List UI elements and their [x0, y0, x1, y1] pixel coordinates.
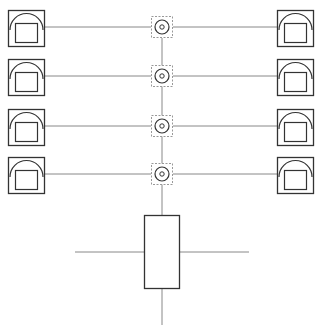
device-inner-box — [285, 73, 307, 92]
device-inner-box — [285, 24, 307, 43]
right-device-icon — [278, 158, 314, 194]
hub-inner-circle-icon — [160, 74, 164, 78]
left-device-icon — [9, 60, 45, 96]
device-inner-box — [285, 123, 307, 142]
device-inner-box — [16, 123, 38, 142]
diagram-row — [9, 158, 314, 194]
left-device-icon — [9, 110, 45, 146]
left-device-icon — [9, 11, 45, 47]
hub-inner-circle-icon — [160, 172, 164, 176]
right-device-icon — [278, 11, 314, 47]
diagram-row — [9, 11, 314, 47]
device-inner-box — [16, 73, 38, 92]
diagram-row — [9, 110, 314, 146]
right-device-icon — [278, 60, 314, 96]
hub-inner-circle-icon — [160, 124, 164, 128]
central-unit — [145, 216, 180, 289]
device-inner-box — [285, 171, 307, 190]
network-diagram — [0, 0, 322, 334]
hub-inner-circle-icon — [160, 25, 164, 29]
device-inner-box — [16, 24, 38, 43]
right-device-icon — [278, 110, 314, 146]
left-device-icon — [9, 158, 45, 194]
diagram-row — [9, 60, 314, 96]
device-inner-box — [16, 171, 38, 190]
